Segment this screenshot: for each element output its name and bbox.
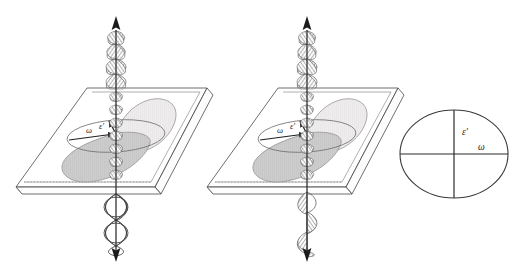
epsilon-prime-label-middle: ε′ xyxy=(290,121,295,131)
axis-arrow-up-left xyxy=(112,16,121,30)
omega-label-middle: ω xyxy=(277,125,283,135)
epsilon-prime-label-left: ε′ xyxy=(99,121,104,131)
panel-middle: ω ε′ xyxy=(207,16,404,262)
omega-label-left: ω xyxy=(86,125,92,135)
panel-left: ω ε′ xyxy=(16,16,213,262)
polarization-figure-svg: ω ε′ xyxy=(0,0,527,265)
figure-root: ω ε′ xyxy=(0,0,527,265)
panel-right: ε′ ω xyxy=(400,110,508,198)
axis-arrow-up-middle xyxy=(303,16,312,30)
epsilon-prime-label-right: ε′ xyxy=(462,127,469,137)
omega-label-right: ω xyxy=(478,142,485,152)
